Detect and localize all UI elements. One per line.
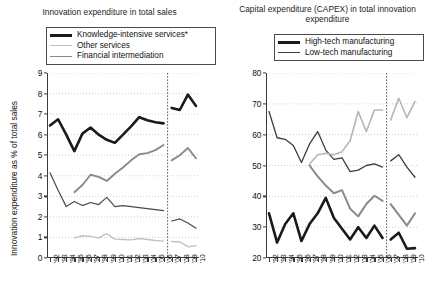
legend-item: Low-tech manufacturing bbox=[278, 48, 418, 59]
y-tick-mark bbox=[44, 93, 48, 94]
x-tick-mark bbox=[334, 258, 335, 262]
plot-lines-right bbox=[266, 73, 418, 258]
y-tick-mark bbox=[44, 114, 48, 115]
y-axis-line-left bbox=[47, 73, 48, 258]
panel-innovation-expenditure: Innovation expenditure in total sales Kn… bbox=[0, 0, 219, 295]
chart-title-left: Innovation expenditure in total sales bbox=[0, 7, 219, 17]
plot-lines-left bbox=[47, 73, 199, 258]
x-tick-mark bbox=[407, 258, 408, 262]
y-tick-mark bbox=[44, 257, 48, 258]
y-tick-mark bbox=[263, 196, 267, 197]
legend-label: Financial intermediation bbox=[77, 51, 163, 62]
chart-title-right: Capital expenditure (CAPEX) in total inn… bbox=[218, 4, 437, 24]
legend-swatch-financial-intermediation-icon bbox=[50, 56, 72, 57]
legend-swatch-other-services-icon bbox=[50, 45, 72, 46]
x-tick-mark bbox=[172, 258, 173, 262]
x-tick-mark bbox=[115, 258, 116, 262]
x-tick-mark bbox=[131, 258, 132, 262]
x-tick-mark bbox=[188, 258, 189, 262]
y-tick-mark bbox=[44, 216, 48, 217]
x-tick-mark bbox=[301, 258, 302, 262]
legend-item: Financial intermediation bbox=[50, 51, 210, 62]
x-tick-mark bbox=[415, 258, 416, 262]
x-tick-label: '10 bbox=[418, 254, 425, 263]
plot-area-left: 0123456789 '92'93'94'95'96'97'98'99'00'0… bbox=[47, 73, 199, 258]
y-tick-mark bbox=[263, 72, 267, 73]
x-tick-mark bbox=[358, 258, 359, 262]
legend-label: Knowledge-intensive services* bbox=[77, 30, 188, 41]
legend-swatch-low-tech-manufacturing-icon bbox=[278, 52, 300, 53]
legend-item: High-tech manufacturing bbox=[278, 37, 418, 48]
x-tick-mark bbox=[123, 258, 124, 262]
x-tick-mark bbox=[285, 258, 286, 262]
y-tick-mark bbox=[44, 134, 48, 135]
x-tick-mark bbox=[74, 258, 75, 262]
x-tick-mark bbox=[58, 258, 59, 262]
legend-label: Other services bbox=[77, 41, 130, 52]
x-tick-mark bbox=[277, 258, 278, 262]
legend-label: Low-tech manufacturing bbox=[305, 48, 392, 59]
x-tick-mark bbox=[293, 258, 294, 262]
x-tick-mark bbox=[374, 258, 375, 262]
x-tick-mark bbox=[155, 258, 156, 262]
x-tick-mark bbox=[139, 258, 140, 262]
y-tick-mark bbox=[44, 237, 48, 238]
legend-swatch-knowledge-intensive-services-icon bbox=[50, 34, 72, 37]
x-tick-mark bbox=[107, 258, 108, 262]
y-tick-mark bbox=[263, 134, 267, 135]
x-tick-mark bbox=[366, 258, 367, 262]
x-tick-mark bbox=[342, 258, 343, 262]
x-tick-mark bbox=[66, 258, 67, 262]
y-tick-mark bbox=[263, 103, 267, 104]
x-tick-mark bbox=[310, 258, 311, 262]
x-tick-mark bbox=[50, 258, 51, 262]
x-tick-mark bbox=[82, 258, 83, 262]
y-tick-mark bbox=[44, 72, 48, 73]
x-tick-mark bbox=[269, 258, 270, 262]
x-tick-label: '10 bbox=[199, 254, 206, 263]
y-axis-line-right bbox=[266, 73, 267, 258]
x-tick-mark bbox=[196, 258, 197, 262]
x-tick-mark bbox=[326, 258, 327, 262]
x-tick-mark bbox=[383, 258, 384, 262]
plot-area-right: 20304050607080 '92'93'94'95'96'97'98'99'… bbox=[266, 73, 418, 258]
legend-item: Other services bbox=[50, 41, 210, 52]
x-tick-mark bbox=[318, 258, 319, 262]
legend-left: Knowledge-intensive services* Other serv… bbox=[46, 27, 216, 65]
x-tick-mark bbox=[391, 258, 392, 262]
legend-item: Knowledge-intensive services* bbox=[50, 30, 210, 41]
y-tick-mark bbox=[44, 196, 48, 197]
x-tick-mark bbox=[399, 258, 400, 262]
y-tick-mark bbox=[263, 227, 267, 228]
panel-capex: Capital expenditure (CAPEX) in total inn… bbox=[218, 0, 437, 295]
legend-right: High-tech manufacturing Low-tech manufac… bbox=[274, 34, 424, 61]
x-tick-mark bbox=[99, 258, 100, 262]
y-tick-mark bbox=[263, 165, 267, 166]
figure-root: Innovation expenditure in total sales Kn… bbox=[0, 0, 437, 295]
x-tick-mark bbox=[180, 258, 181, 262]
x-tick-mark bbox=[350, 258, 351, 262]
y-tick-mark bbox=[263, 257, 267, 258]
legend-swatch-high-tech-manufacturing-icon bbox=[278, 41, 300, 44]
y-tick-mark bbox=[44, 155, 48, 156]
x-tick-mark bbox=[147, 258, 148, 262]
x-tick-mark bbox=[164, 258, 165, 262]
legend-label: High-tech manufacturing bbox=[305, 37, 394, 48]
x-tick-mark bbox=[91, 258, 92, 262]
y-axis-label-left: Innovation expenditure as % of total sal… bbox=[9, 101, 19, 256]
y-tick-mark bbox=[44, 175, 48, 176]
